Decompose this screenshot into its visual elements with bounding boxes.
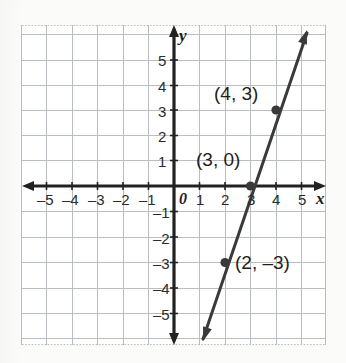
- point-marker-2-neg3: [220, 258, 229, 267]
- y-tick-label-4: 4: [158, 79, 166, 94]
- x-tick-label-1: 1: [196, 192, 204, 207]
- y-tick-label-neg4: –4: [153, 281, 170, 296]
- x-tick-label-5: 5: [298, 192, 306, 207]
- y-tick-label-5: 5: [158, 53, 166, 68]
- y-tick-label-neg3: –3: [153, 256, 170, 271]
- y-tick-label-3: 3: [158, 104, 166, 119]
- graph-figure: –5 –4 –3 –2 –1 1 2 3 4 5 5 4 3 2 1 –1 –2…: [0, 0, 346, 363]
- y-axis-name: y: [179, 27, 187, 44]
- y-tick-label-neg1: –1: [153, 205, 170, 220]
- point-marker-3-0: [246, 181, 255, 190]
- y-tick-label-2: 2: [158, 129, 166, 144]
- x-tick-label-neg5: –5: [37, 192, 54, 207]
- y-tick-label-neg5: –5: [153, 307, 170, 322]
- y-tick-label-1: 1: [158, 154, 166, 169]
- point-marker-4-3: [271, 105, 280, 114]
- x-tick-label-neg4: –4: [62, 192, 79, 207]
- y-tick-label-neg2: –2: [153, 231, 170, 246]
- x-tick-label-neg2: –2: [113, 192, 130, 207]
- x-tick-label-4: 4: [272, 192, 280, 207]
- origin-label: 0: [179, 191, 187, 207]
- point-label-3-0: (3, 0): [196, 150, 240, 169]
- coordinate-plane-canvas: [0, 0, 346, 363]
- point-label-4-3: (4, 3): [214, 84, 258, 103]
- point-label-2-neg3: (2, –3): [235, 253, 290, 272]
- x-tick-label-neg3: –3: [88, 192, 105, 207]
- x-tick-label-2: 2: [221, 192, 229, 207]
- x-tick-label-3: 3: [247, 192, 255, 207]
- x-axis-name: x: [316, 190, 325, 207]
